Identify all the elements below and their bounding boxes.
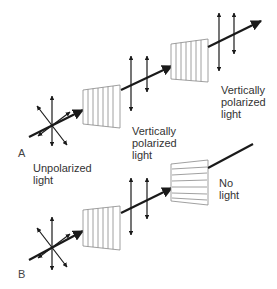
panel-a-label: A bbox=[18, 147, 25, 159]
incident-beam bbox=[29, 231, 83, 260]
vertical-polarization-arrows-output bbox=[219, 13, 234, 71]
unpolarized-light-label: Unpolarized light bbox=[33, 162, 92, 186]
incident-beam bbox=[29, 110, 83, 137]
vertical-polarizer-1 bbox=[83, 85, 120, 128]
blocked-beam bbox=[208, 144, 253, 168]
horizontal-polarizer bbox=[171, 160, 208, 205]
middle-vertically-polarized-label: Vertically polarized light bbox=[132, 125, 177, 161]
output-vertically-polarized-label: Vertically polarized light bbox=[221, 84, 266, 120]
no-light-label: No light bbox=[219, 177, 239, 201]
vertical-polarizer-1 bbox=[83, 206, 120, 250]
unpolarized-light-icon bbox=[37, 96, 70, 146]
vertical-polarizer-2 bbox=[171, 39, 208, 82]
panel-b-label: B bbox=[18, 268, 25, 280]
unpolarized-light-icon bbox=[37, 217, 70, 270]
